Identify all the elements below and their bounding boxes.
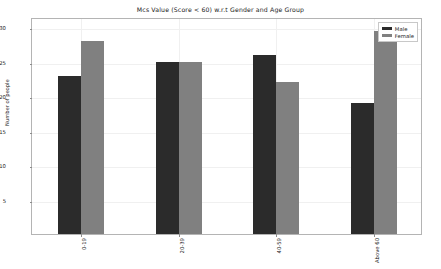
- bar-female-20-39: [179, 62, 202, 234]
- y-axis-label: Number of people: [4, 79, 10, 126]
- bar-female-above-60: [374, 31, 397, 234]
- y-tick-label: 20: [0, 94, 6, 100]
- bar-male-40-59: [253, 55, 276, 234]
- x-tick-label: 40-59: [276, 238, 282, 253]
- x-tick-mark: [276, 234, 277, 237]
- bar-female-0-19: [81, 41, 104, 234]
- bar-male-0-19: [58, 76, 81, 234]
- bar-female-40-59: [276, 82, 299, 234]
- legend-item-male: Male: [382, 25, 414, 32]
- x-tick-mark: [374, 234, 375, 237]
- bars-layer: [32, 19, 421, 234]
- x-tick-label: 20-39: [179, 238, 185, 253]
- legend: Male Female: [378, 22, 418, 42]
- chart-figure: Mcs Value (Score < 60) w.r.t Gender and …: [0, 0, 441, 269]
- legend-label-male: Male: [395, 26, 408, 32]
- x-tick-label: Above 60: [374, 238, 380, 263]
- chart-title: Mcs Value (Score < 60) w.r.t Gender and …: [0, 6, 441, 13]
- plot-area: 0-1920-3940-59Above 60 Male Female: [31, 18, 422, 235]
- x-tick-label: 0-19: [81, 238, 87, 250]
- x-tick-mark: [179, 234, 180, 237]
- legend-swatch-male: [382, 27, 392, 31]
- bar-male-20-39: [156, 62, 179, 234]
- x-tick-mark: [81, 234, 82, 237]
- y-tick-label: 30: [0, 25, 6, 31]
- y-tick-label: 15: [0, 129, 6, 135]
- bar-male-above-60: [351, 103, 374, 234]
- y-tick-label: 10: [0, 163, 6, 169]
- legend-swatch-female: [382, 34, 392, 38]
- legend-label-female: Female: [395, 33, 414, 39]
- legend-item-female: Female: [382, 32, 414, 39]
- y-tick-label: 25: [0, 60, 6, 66]
- y-tick-label: 5: [0, 198, 6, 204]
